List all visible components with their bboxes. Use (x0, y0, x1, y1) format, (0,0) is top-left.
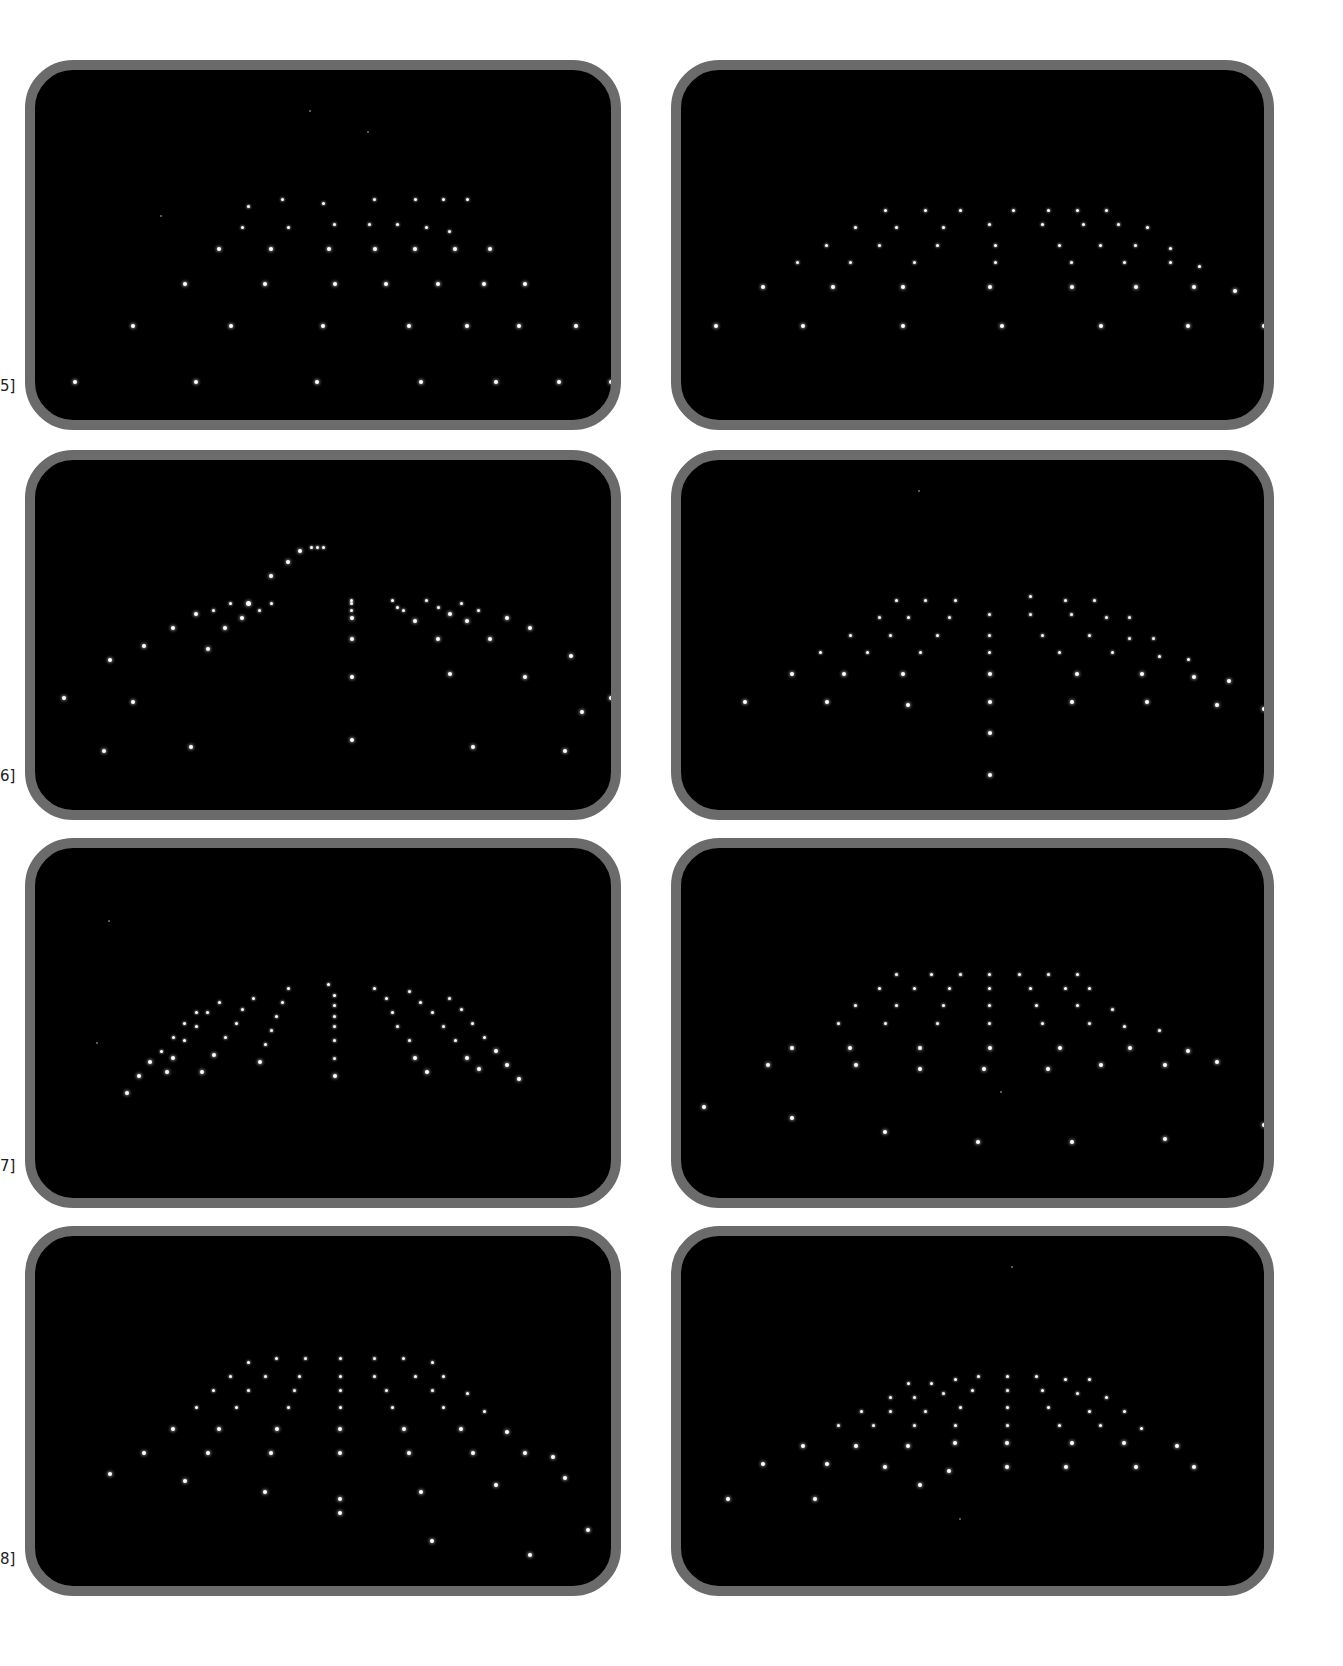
light-point (895, 599, 898, 602)
light-point (1070, 700, 1074, 704)
light-point (431, 1389, 434, 1392)
light-point (333, 994, 336, 997)
light-point (523, 1451, 527, 1455)
light-point (131, 700, 135, 704)
light-point (895, 1004, 898, 1007)
light-point (913, 261, 916, 264)
light-point (790, 1116, 794, 1120)
light-point (702, 1105, 706, 1109)
light-point (1186, 324, 1190, 328)
light-point (988, 223, 991, 226)
light-point (1070, 261, 1073, 264)
light-point (977, 1375, 980, 1378)
light-point (189, 745, 193, 749)
light-point (517, 324, 521, 328)
light-point (1058, 651, 1061, 654)
light-point (557, 380, 561, 384)
image-panel-7 (25, 1226, 621, 1596)
image-panel-2 (671, 60, 1274, 430)
light-point (1169, 261, 1172, 264)
light-point (714, 324, 718, 328)
light-point (849, 634, 852, 637)
light-point (889, 1396, 892, 1399)
light-point (1227, 679, 1231, 683)
light-point (217, 1427, 221, 1431)
light-point (483, 1036, 486, 1039)
light-point (988, 1046, 992, 1050)
light-point (465, 324, 469, 328)
light-point (258, 1060, 262, 1064)
light-point (1105, 1396, 1108, 1399)
light-point (1158, 655, 1161, 658)
light-point (488, 247, 492, 251)
light-point (466, 198, 469, 201)
light-point (1006, 1406, 1009, 1409)
light-point (1198, 265, 1201, 268)
light-point (505, 616, 509, 620)
light-point (287, 226, 290, 229)
light-point (919, 651, 922, 654)
light-point (391, 1011, 394, 1014)
light-point (171, 626, 175, 630)
light-point (1175, 1444, 1179, 1448)
light-point (431, 1011, 434, 1014)
light-point (854, 1444, 858, 1448)
light-point (212, 1053, 216, 1057)
light-point (517, 1077, 521, 1081)
light-point (385, 1389, 388, 1392)
light-point (281, 1001, 284, 1004)
light-point (477, 609, 480, 612)
light-point (247, 1389, 250, 1392)
light-point (494, 380, 498, 384)
light-point (1082, 223, 1085, 226)
light-point (1064, 599, 1067, 602)
light-point (1233, 289, 1237, 293)
light-point (206, 1451, 210, 1455)
light-point (848, 1046, 852, 1050)
light-point (240, 616, 244, 620)
light-point (988, 700, 992, 704)
light-point (413, 1056, 417, 1060)
image-panel-6 (671, 838, 1274, 1208)
light-point (906, 703, 910, 707)
light-point (218, 1001, 221, 1004)
light-point (1070, 613, 1073, 616)
light-point (1041, 1389, 1044, 1392)
light-point (1134, 285, 1138, 289)
light-point (269, 247, 273, 251)
light-point (924, 599, 927, 602)
light-point (338, 1497, 342, 1501)
light-point (842, 672, 846, 676)
light-point (947, 1469, 951, 1473)
light-point (384, 282, 388, 286)
light-point (1064, 987, 1067, 990)
light-point (171, 1056, 175, 1060)
light-point (1005, 1441, 1009, 1445)
light-point (263, 282, 267, 286)
light-point (264, 1375, 267, 1378)
light-point (1145, 700, 1149, 704)
light-point (878, 987, 881, 990)
light-point (223, 626, 227, 630)
light-point (1262, 707, 1266, 711)
light-point (368, 223, 371, 226)
light-point (918, 1046, 922, 1050)
light-point (988, 634, 991, 637)
light-point (884, 209, 887, 212)
light-point (1117, 223, 1120, 226)
light-point (1035, 1375, 1038, 1378)
light-point (1076, 973, 1079, 976)
light-point (1011, 1266, 1013, 1268)
light-point (854, 1004, 857, 1007)
light-point (419, 1490, 423, 1494)
light-point (889, 634, 892, 637)
light-point (258, 609, 261, 612)
light-point (391, 599, 394, 602)
light-point (761, 1462, 765, 1466)
light-point (298, 549, 302, 553)
light-point (436, 282, 440, 286)
light-point (459, 1427, 463, 1431)
light-point (1029, 613, 1032, 616)
image-panel-4 (671, 450, 1274, 820)
light-point (448, 612, 452, 616)
